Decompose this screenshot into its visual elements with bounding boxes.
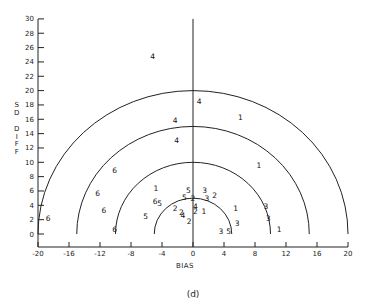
x-tick-label: -20 xyxy=(32,250,43,258)
data-point-label: 1 xyxy=(201,207,206,216)
data-point-label: 4 xyxy=(150,52,155,61)
scatter-chart: -20-16-12-8-4048121620024681012141618202… xyxy=(0,0,369,307)
x-tick-label: 20 xyxy=(344,250,353,258)
data-point-label: 6 xyxy=(46,214,51,223)
axis-titles: BIAS (d) xyxy=(176,262,199,299)
data-point-label: 3 xyxy=(235,219,240,228)
x-tick-label: 4 xyxy=(222,250,227,258)
y-tick-label: 30 xyxy=(25,15,34,23)
data-point-label: 3 xyxy=(266,214,271,223)
data-point-label: 5 xyxy=(226,227,231,236)
x-tick-label: -16 xyxy=(63,250,75,258)
y-tick-label: 24 xyxy=(25,58,34,66)
data-point-label: 3 xyxy=(205,194,210,203)
y-tick-label: 8 xyxy=(30,173,34,181)
y-tick-label: 22 xyxy=(25,73,34,81)
y-tick-label: 4 xyxy=(30,202,35,210)
x-tick-label: -12 xyxy=(94,250,105,258)
y-tick-label: 18 xyxy=(25,101,34,109)
data-point-label: 1 xyxy=(277,225,282,234)
y-tick-label: 14 xyxy=(25,130,34,138)
figure-caption: (d) xyxy=(187,289,200,299)
data-point-label: 4 xyxy=(197,97,202,106)
x-tick-label: -8 xyxy=(128,250,135,258)
y-tick-label: 0 xyxy=(30,231,34,239)
x-tick-label: 16 xyxy=(313,250,322,258)
data-point-label: 6 xyxy=(112,166,117,175)
data-point-label: 4 xyxy=(174,136,179,145)
data-point-label: 2 xyxy=(187,217,192,226)
y-axis-title: SDDIFF xyxy=(14,101,20,156)
x-tick-label: 8 xyxy=(253,250,257,258)
data-points: 66666165544441155233222442121335331 xyxy=(46,52,282,236)
data-point-label: 3 xyxy=(219,227,224,236)
y-axis-title-letter: F xyxy=(15,148,20,156)
y-axis-title-letter: D xyxy=(14,109,20,117)
x-axis-title: BIAS xyxy=(176,262,194,270)
y-tick-label: 2 xyxy=(30,216,34,224)
data-point-label: 2 xyxy=(193,207,198,216)
data-point-label: 4 xyxy=(173,116,178,125)
data-point-label: 2 xyxy=(173,204,178,213)
data-point-label: 6 xyxy=(95,189,100,198)
data-point-label: 6 xyxy=(112,225,117,234)
y-tick-label: 28 xyxy=(25,30,34,38)
axes: -20-16-12-8-4048121620024681012141618202… xyxy=(14,15,352,258)
data-point-label: 2 xyxy=(212,191,217,200)
y-tick-label: 10 xyxy=(25,159,34,167)
y-tick-label: 26 xyxy=(25,44,34,52)
data-point-label: 1 xyxy=(153,184,158,193)
data-point-label: 4 xyxy=(181,211,186,220)
y-tick-label: 20 xyxy=(25,87,34,95)
y-tick-label: 12 xyxy=(25,144,34,152)
data-point-label: 1 xyxy=(233,204,238,213)
data-point-label: 5 xyxy=(157,199,162,208)
data-point-label: 3 xyxy=(263,202,268,211)
x-tick-label: -4 xyxy=(159,250,167,258)
y-tick-label: 6 xyxy=(30,187,35,195)
x-tick-label: 0 xyxy=(191,250,195,258)
data-point-label: 1 xyxy=(256,161,261,170)
x-tick-label: 12 xyxy=(282,250,291,258)
data-point-label: 5 xyxy=(182,193,187,202)
data-point-label: 1 xyxy=(238,113,243,122)
data-point-label: 6 xyxy=(101,206,106,215)
y-tick-label: 16 xyxy=(25,116,34,124)
data-point-label: 5 xyxy=(143,212,148,221)
